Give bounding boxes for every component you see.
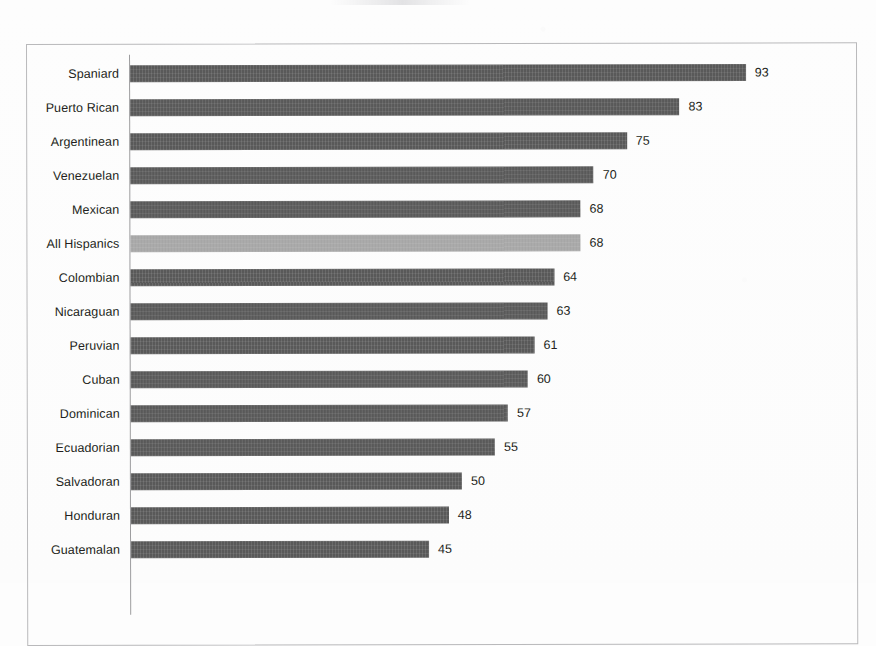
bar-highlighted	[130, 234, 580, 252]
bar-value-label: 75	[636, 134, 650, 148]
bar	[131, 370, 528, 388]
bar	[131, 302, 548, 320]
chart-row: Salvadoran50	[28, 463, 857, 499]
chart-row: Peruvian61	[28, 327, 857, 363]
category-label: Salvadoran	[56, 475, 120, 489]
bar-value-label: 45	[438, 542, 452, 556]
bar	[131, 473, 462, 491]
category-label: Honduran	[64, 509, 120, 523]
chart-row: Mexican68	[27, 191, 856, 227]
category-label: All Hispanics	[47, 237, 120, 251]
bar	[130, 64, 746, 82]
bar-value-label: 83	[689, 100, 703, 114]
chart-row: Ecuadorian55	[28, 429, 857, 465]
bar-value-label: 60	[537, 372, 551, 386]
bar	[130, 200, 580, 218]
bar-value-label: 63	[557, 304, 571, 318]
bar-value-label: 50	[471, 474, 485, 488]
category-label: Guatemalan	[51, 543, 120, 557]
category-label: Colombian	[59, 271, 120, 285]
bar	[131, 404, 508, 422]
bar-value-label: 57	[517, 406, 531, 420]
category-label: Venezuelan	[53, 169, 119, 183]
chart-row: Dominican57	[28, 395, 857, 431]
bar-value-label: 61	[543, 338, 557, 352]
chart-row: Nicaraguan63	[28, 293, 857, 329]
chart-plot-area: Spaniard93Puerto Rican83Argentinean75Ven…	[27, 43, 857, 645]
chart-row: Puerto Rican83	[27, 89, 856, 125]
bar-value-label: 55	[504, 440, 518, 454]
bar	[131, 507, 449, 525]
chart-row: Venezuelan70	[27, 157, 856, 193]
category-label: Ecuadorian	[56, 441, 120, 455]
bar	[130, 268, 554, 286]
bar-value-label: 70	[603, 168, 617, 182]
bar	[131, 541, 429, 559]
category-label: Mexican	[72, 203, 119, 217]
bar-value-label: 48	[458, 508, 472, 522]
chart-frame: Spaniard93Puerto Rican83Argentinean75Ven…	[26, 42, 858, 646]
chart-row: All Hispanics68	[27, 225, 856, 261]
bar-value-label: 93	[755, 65, 769, 79]
chart-row: Honduran48	[28, 497, 857, 533]
chart-row: Argentinean75	[27, 123, 856, 159]
category-label: Dominican	[60, 407, 120, 421]
bar-value-label: 68	[590, 236, 604, 250]
chart-row: Cuban60	[28, 361, 857, 397]
category-label: Cuban	[82, 373, 119, 387]
bar	[130, 166, 593, 184]
chart-row: Colombian64	[27, 259, 856, 295]
category-label: Peruvian	[69, 339, 119, 353]
bar	[130, 132, 627, 150]
bar-value-label: 68	[589, 202, 603, 216]
category-label: Nicaraguan	[55, 305, 120, 319]
scan-artifact	[330, 0, 470, 5]
bar	[130, 98, 679, 116]
category-label: Argentinean	[51, 135, 120, 149]
bar	[131, 439, 495, 457]
category-label: Puerto Rican	[46, 101, 119, 115]
chart-row: Spaniard93	[27, 55, 856, 91]
chart-row: Guatemalan45	[28, 531, 857, 567]
bar-value-label: 64	[563, 270, 577, 284]
category-label: Spaniard	[68, 67, 119, 81]
bar	[131, 336, 535, 354]
